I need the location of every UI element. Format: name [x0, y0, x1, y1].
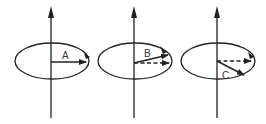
panel-a: A	[15, 6, 90, 118]
orbit-ellipse	[98, 43, 172, 79]
vector-label: C	[222, 70, 229, 81]
panel-b: B	[98, 6, 172, 118]
axis-arrowhead-icon	[48, 6, 54, 18]
vector-label: B	[144, 48, 151, 59]
axis-arrowhead-icon	[131, 6, 137, 18]
axis-arrowhead-icon	[214, 6, 220, 18]
solid-vector	[134, 55, 168, 63]
panel-c: C	[181, 6, 255, 118]
vector-label: A	[62, 50, 69, 61]
precession-diagram: A B C	[0, 0, 266, 124]
orbit-direction-arrow-icon	[160, 46, 167, 54]
orbit-ellipse	[15, 43, 89, 79]
